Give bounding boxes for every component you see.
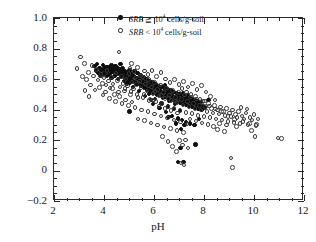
tick-mark xyxy=(54,79,60,80)
data-point xyxy=(222,129,227,134)
data-point xyxy=(117,50,122,55)
data-point xyxy=(239,105,244,110)
data-point xyxy=(181,130,186,135)
data-point xyxy=(208,94,213,99)
data-point xyxy=(134,82,139,87)
tick-mark xyxy=(54,87,57,88)
tick-mark xyxy=(301,193,304,194)
tick-mark xyxy=(292,198,293,201)
data-point xyxy=(254,122,259,127)
data-point xyxy=(199,83,204,88)
data-point xyxy=(208,115,213,120)
data-point xyxy=(217,121,222,126)
data-point xyxy=(84,77,89,82)
tick-mark xyxy=(54,102,57,103)
tick-mark xyxy=(54,125,57,126)
data-point xyxy=(253,134,258,139)
tick-mark xyxy=(242,18,243,21)
y-tick-label: 0.2 xyxy=(17,134,47,145)
tick-mark xyxy=(298,140,304,141)
tick-mark xyxy=(67,198,68,201)
data-point xyxy=(138,74,143,79)
data-point xyxy=(107,96,112,101)
tick-mark xyxy=(301,155,304,156)
data-point xyxy=(178,120,183,125)
data-point xyxy=(142,118,147,123)
tick-mark xyxy=(279,198,280,201)
y-tick-label: 0 xyxy=(17,164,47,175)
tick-mark xyxy=(54,33,57,34)
tick-mark xyxy=(54,186,57,187)
tick-mark xyxy=(54,140,60,141)
data-point xyxy=(162,125,167,130)
data-point xyxy=(164,110,168,114)
data-point xyxy=(159,114,164,119)
tick-mark xyxy=(229,18,230,21)
data-point xyxy=(139,108,144,113)
data-point xyxy=(219,109,224,114)
data-point xyxy=(215,127,220,132)
data-point xyxy=(139,86,144,91)
x-tick-label: 8 xyxy=(190,205,216,216)
open-circle-icon xyxy=(115,28,126,32)
tick-mark xyxy=(79,198,80,201)
data-point xyxy=(185,99,190,104)
data-point xyxy=(229,156,234,161)
data-point xyxy=(135,92,140,97)
tick-mark xyxy=(54,117,57,118)
data-point xyxy=(159,93,164,98)
tick-mark xyxy=(217,18,218,21)
tick-mark xyxy=(54,193,57,194)
data-point xyxy=(234,124,239,129)
tick-mark xyxy=(204,18,205,24)
data-point xyxy=(232,117,237,122)
data-point xyxy=(152,112,157,117)
data-point xyxy=(152,80,157,85)
data-point xyxy=(87,94,92,99)
figure: 1.00.80.60.40.20−0.2 24681012 酸化還元電位 Eh … xyxy=(0,0,316,242)
data-point xyxy=(75,66,80,71)
tick-mark xyxy=(298,79,304,80)
tick-mark xyxy=(298,201,304,202)
tick-mark xyxy=(301,71,304,72)
data-point xyxy=(181,79,186,84)
y-tick-label: −0.2 xyxy=(17,195,47,206)
y-tick-label: 0.8 xyxy=(17,42,47,53)
data-point xyxy=(182,163,187,168)
tick-mark xyxy=(298,18,304,19)
tick-mark xyxy=(304,195,305,201)
data-point xyxy=(172,77,177,82)
data-point xyxy=(146,77,151,82)
tick-mark xyxy=(254,18,255,24)
data-point xyxy=(101,93,106,98)
data-point xyxy=(184,110,189,115)
data-point xyxy=(151,98,156,103)
tick-mark xyxy=(54,163,57,164)
data-point xyxy=(186,85,191,90)
tick-mark xyxy=(67,18,68,21)
data-point xyxy=(136,117,141,122)
data-point xyxy=(180,143,185,148)
data-point xyxy=(130,100,135,105)
x-tick-label: 10 xyxy=(240,205,266,216)
data-point xyxy=(249,128,254,133)
tick-mark xyxy=(79,18,80,21)
tick-mark xyxy=(301,163,304,164)
data-point xyxy=(175,111,180,116)
tick-mark xyxy=(54,132,57,133)
data-point xyxy=(204,90,209,95)
tick-mark xyxy=(54,49,60,50)
tick-mark xyxy=(167,198,168,201)
data-point xyxy=(150,68,155,73)
tick-mark xyxy=(301,33,304,34)
tick-mark xyxy=(298,171,304,172)
data-point xyxy=(191,101,196,106)
data-point xyxy=(116,90,121,95)
data-point xyxy=(129,89,134,94)
data-point xyxy=(197,103,202,108)
tick-mark xyxy=(301,102,304,103)
data-point xyxy=(174,149,179,154)
data-point xyxy=(252,112,257,117)
data-point xyxy=(183,138,188,143)
data-point xyxy=(82,61,87,66)
